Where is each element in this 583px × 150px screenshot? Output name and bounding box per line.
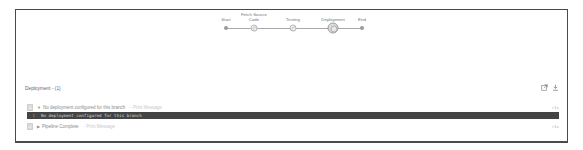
- stage-node-icon: [360, 26, 364, 30]
- download-icon[interactable]: [552, 84, 559, 91]
- stage-node-icon: [224, 26, 228, 30]
- stage-label: End: [358, 17, 366, 22]
- stage-fetch-source-code[interactable]: Fetch Source Code: [250, 20, 258, 36]
- step-title: No deployment configured for this branch: [43, 105, 125, 110]
- stage-label: Start: [221, 17, 230, 22]
- stage-selected-icon: [328, 23, 339, 34]
- step-type: - Print Message: [84, 124, 116, 129]
- pipeline-graph: Start Fetch Source Code Testing Deployme…: [16, 10, 567, 50]
- step-status-icon: [27, 104, 33, 111]
- stage-success-icon: [290, 25, 297, 32]
- stage-label: Testing: [286, 17, 300, 22]
- stage-log-title: Deployment - (1): [25, 86, 61, 91]
- log-step-row[interactable]: ▼ No deployment configured for this bran…: [27, 104, 559, 111]
- log-text: No deployment configured for this branch: [41, 113, 142, 118]
- log-output-line: 1 No deployment configured for this bran…: [27, 112, 559, 119]
- external-link-icon[interactable]: [541, 84, 548, 91]
- step-type: - Print Message: [130, 105, 162, 110]
- expand-chevron-icon[interactable]: ▶: [37, 124, 40, 129]
- stage-label: Deployment: [321, 17, 344, 22]
- step-title: Pipeline Complete: [42, 124, 79, 129]
- stage-end[interactable]: End: [358, 20, 366, 36]
- stage-success-icon: [251, 25, 258, 32]
- stage-deployment[interactable]: Deployment: [329, 20, 337, 36]
- pipeline-run-panel: Start Fetch Source Code Testing Deployme…: [15, 9, 568, 143]
- stage-start[interactable]: Start: [222, 20, 230, 36]
- collapse-chevron-icon[interactable]: ▼: [37, 105, 41, 110]
- log-step-row[interactable]: ▶ Pipeline Complete - Print Message <1s: [27, 123, 559, 130]
- stage-testing[interactable]: Testing: [289, 20, 297, 36]
- step-duration: <1s: [552, 105, 559, 110]
- pipeline-edge: [254, 28, 293, 29]
- stage-label: Fetch Source Code: [240, 12, 268, 22]
- line-number[interactable]: 1: [27, 113, 41, 118]
- step-status-icon: [27, 123, 33, 130]
- log-actions: [541, 84, 559, 91]
- step-duration: <1s: [552, 124, 559, 129]
